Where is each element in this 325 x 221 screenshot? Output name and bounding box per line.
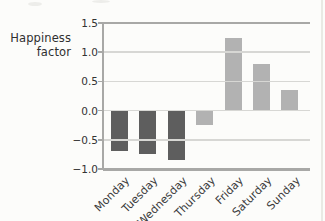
y-tick-label-0.5: 0.5	[55, 75, 98, 87]
y-tick-mark	[98, 168, 102, 170]
left-axis-line	[102, 22, 104, 170]
bar-saturday	[253, 64, 270, 111]
gridline-0.5	[104, 81, 310, 83]
y-tick-label-1.0: 1.0	[55, 46, 98, 58]
y-tick-label-0.0: 0.0	[55, 105, 98, 117]
bar-sunday	[281, 90, 298, 110]
gridline-0.0	[104, 110, 310, 112]
bar-tuesday	[139, 111, 156, 155]
top-axis-line	[103, 22, 310, 24]
y-tick-mark	[98, 110, 102, 112]
bar-wednesday	[168, 111, 185, 161]
y-tick-mark	[98, 139, 102, 141]
scan-artifact	[92, 0, 110, 3]
gridline-−0.5	[104, 139, 310, 141]
y-tick-label-−1.0: −1.0	[55, 163, 98, 175]
bar-monday	[111, 111, 128, 152]
y-tick-label-−0.5: −0.5	[55, 134, 98, 146]
y-tick-mark	[98, 81, 102, 83]
y-tick-mark	[98, 22, 102, 24]
bottom-axis-line	[103, 168, 310, 171]
bar-thursday	[196, 111, 213, 126]
plot-area	[104, 23, 310, 169]
bar-friday	[225, 38, 242, 111]
happiness-factor-bar-chart: Happiness factor 1.51.00.50.0−0.5−1.0 Mo…	[0, 0, 325, 221]
y-axis-title-line1: Happiness	[0, 31, 71, 45]
gridline-1.0	[104, 51, 310, 53]
scan-artifact	[28, 2, 42, 6]
y-tick-mark	[98, 51, 102, 53]
page-edge-shadow	[321, 0, 323, 221]
y-tick-label-1.5: 1.5	[55, 17, 98, 29]
